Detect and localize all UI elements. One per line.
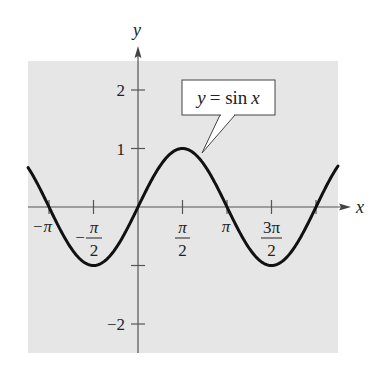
y-tick-label-2: 2 [117, 81, 126, 100]
svg-text:π: π [178, 218, 187, 237]
svg-text:2: 2 [267, 241, 276, 260]
x-tick-label-pi: π [222, 217, 231, 236]
x-tick-label-neg-pi: −π [32, 217, 52, 236]
sine-chart: y= sinx y x 2 1 −2 −π − π 2 π 2 π 3π 2 [0, 0, 384, 376]
svg-text:2: 2 [178, 241, 187, 260]
svg-text:π: π [90, 218, 99, 237]
annotation-text: y= sinx [195, 87, 260, 108]
y-tick-label-1: 1 [117, 140, 126, 159]
y-axis-label: y [131, 20, 141, 40]
svg-text:−: − [75, 228, 85, 247]
x-axis-label: x [355, 197, 364, 217]
svg-text:3π: 3π [263, 218, 281, 237]
y-tick-label-neg2: −2 [107, 315, 125, 334]
svg-text:2: 2 [90, 241, 99, 260]
